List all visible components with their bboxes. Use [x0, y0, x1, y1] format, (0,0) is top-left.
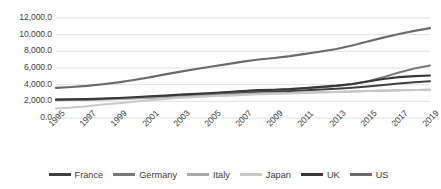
legend-label: US — [376, 170, 389, 180]
legend-swatch-icon — [187, 173, 209, 175]
legend-label: UK — [327, 170, 340, 180]
legend-item-japan[interactable]: Japan — [240, 170, 291, 180]
plot-area: 0.02,000.04,000.06,000.08,000.010,000.01… — [0, 0, 437, 160]
legend-item-germany[interactable]: Germany — [113, 170, 177, 180]
chart-legend: FranceGermanyItalyJapanUKUS — [0, 160, 437, 189]
legend-label: Japan — [266, 170, 291, 180]
legend-item-italy[interactable]: Italy — [187, 170, 230, 180]
legend-label: France — [75, 170, 104, 180]
legend-item-france[interactable]: France — [49, 170, 104, 180]
legend-swatch-icon — [49, 173, 71, 175]
legend-swatch-icon — [113, 173, 135, 175]
legend-label: Italy — [213, 170, 230, 180]
legend-swatch-icon — [350, 173, 372, 175]
legend-swatch-icon — [240, 173, 262, 175]
legend-swatch-icon — [301, 173, 323, 175]
legend-item-us[interactable]: US — [350, 170, 389, 180]
legend-label: Germany — [139, 170, 177, 180]
legend-item-uk[interactable]: UK — [301, 170, 340, 180]
x-axis-tick-labels: 1995199719992001200320052007200920112013… — [0, 118, 437, 160]
